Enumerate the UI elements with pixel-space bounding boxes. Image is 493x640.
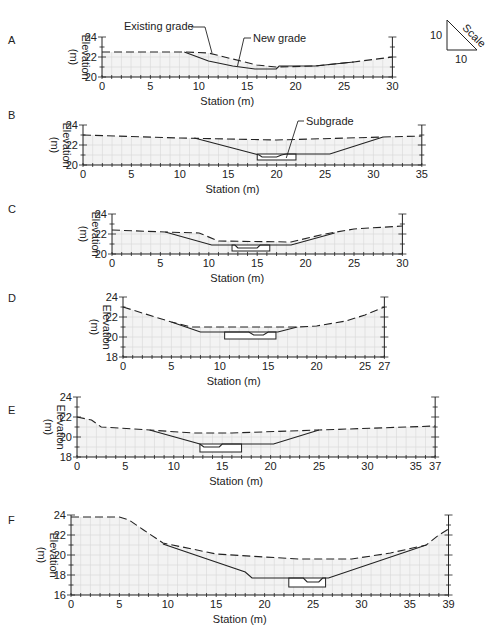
annotation-label: New grade (253, 32, 306, 44)
x-tick-label: 35 (404, 598, 416, 610)
panel-d: D05101520252718202224Station (m)Elevatio… (8, 291, 390, 387)
x-axis-label: Station (m) (209, 475, 263, 487)
panel-letter: C (8, 203, 16, 215)
x-tick-label: 30 (386, 80, 398, 92)
x-tick-label: 5 (128, 168, 134, 180)
x-tick-label: 10 (162, 598, 174, 610)
ground-fill (71, 517, 449, 595)
y-axis-unit-label: (m) (49, 137, 61, 154)
x-tick-label: 20 (289, 80, 301, 92)
y-tick-label: 24 (60, 391, 72, 403)
y-tick-label: 24 (106, 291, 118, 303)
x-tick-label: 0 (74, 460, 80, 472)
x-tick-label: 30 (396, 257, 408, 269)
annotation-leader (191, 27, 212, 53)
y-axis-label: Elevation (48, 532, 60, 577)
x-tick-label: 35 (410, 460, 422, 472)
panel-letter: E (8, 404, 15, 416)
y-axis-unit-label: (m) (78, 226, 90, 243)
x-tick-label: 25 (359, 360, 371, 372)
panel-e: E051015202530353718202224Station (m)Elev… (8, 391, 441, 487)
x-tick-label: 5 (147, 80, 153, 92)
x-tick-label: 25 (319, 168, 331, 180)
x-tick-label: 20 (258, 598, 270, 610)
x-tick-label: 25 (338, 80, 350, 92)
y-axis-unit-label: (m) (43, 419, 55, 436)
x-tick-label: 25 (348, 257, 360, 269)
x-tick-label: 0 (80, 168, 86, 180)
scale-label: Scale (460, 22, 488, 50)
panel-a: A051015202530202224Station (m)Elevation(… (8, 20, 399, 107)
x-tick-label: 20 (270, 168, 282, 180)
annotation-label: Existing grade (124, 20, 194, 32)
y-axis-label: Elevation (90, 211, 102, 256)
panel-f: F05101520253035391618202224Station (m)El… (8, 509, 455, 625)
cross-section-figure: A051015202530202224Station (m)Elevation(… (0, 0, 493, 640)
x-axis-label: Station (m) (213, 613, 267, 625)
scale-indicator: Scale 10 10 (430, 20, 488, 65)
x-tick-label: 30 (367, 168, 379, 180)
x-tick-label: 5 (122, 460, 128, 472)
x-tick-label: 10 (203, 257, 215, 269)
x-tick-label: 10 (193, 80, 205, 92)
x-tick-label: 5 (116, 598, 122, 610)
y-axis-unit-label: (m) (36, 547, 48, 564)
x-tick-label: 10 (168, 460, 180, 472)
x-tick-label: 0 (109, 257, 115, 269)
y-tick-label: 16 (54, 589, 66, 601)
x-tick-label: 35 (416, 168, 428, 180)
x-tick-label: 15 (210, 598, 222, 610)
x-tick-label: 5 (168, 360, 174, 372)
y-axis-unit-label: (m) (89, 319, 101, 336)
x-tick-label: 15 (251, 257, 263, 269)
x-tick-label: 5 (157, 257, 163, 269)
x-tick-label: 39 (442, 598, 454, 610)
scale-vertical-value: 10 (430, 29, 442, 41)
y-axis-unit-label: (m) (68, 49, 80, 66)
x-tick-label: 20 (310, 360, 322, 372)
x-tick-label: 10 (214, 360, 226, 372)
x-tick-label: 25 (307, 598, 319, 610)
y-tick-label: 24 (54, 509, 66, 521)
x-tick-label: 0 (99, 80, 105, 92)
y-axis-label: Elevation (101, 304, 113, 349)
x-tick-label: 20 (264, 460, 276, 472)
y-tick-label: 18 (60, 451, 72, 463)
x-tick-label: 10 (174, 168, 186, 180)
x-tick-label: 37 (429, 460, 441, 472)
annotation-label: Subgrade (306, 115, 354, 127)
x-tick-label: 0 (120, 360, 126, 372)
panel-letter: A (8, 34, 16, 46)
x-tick-label: 15 (216, 460, 228, 472)
x-tick-label: 15 (262, 360, 274, 372)
x-axis-label: Station (m) (210, 272, 264, 284)
panel-letter: D (8, 292, 16, 304)
panel-b: B05101520253035202224Station (m)Elevatio… (8, 109, 428, 195)
panel-c: C051015202530202224Station (m)Elevation(… (8, 203, 409, 284)
x-tick-label: 25 (313, 460, 325, 472)
x-axis-label: Station (m) (200, 95, 254, 107)
x-axis-label: Station (m) (206, 183, 260, 195)
x-tick-label: 15 (222, 168, 234, 180)
y-tick-label: 18 (106, 351, 118, 363)
x-tick-label: 27 (378, 360, 390, 372)
panel-letter: B (8, 109, 15, 121)
x-axis-label: Station (m) (207, 375, 261, 387)
x-tick-label: 0 (68, 598, 74, 610)
x-tick-label: 30 (355, 598, 367, 610)
x-tick-label: 20 (299, 257, 311, 269)
y-axis-label: Elevation (61, 122, 73, 167)
x-tick-label: 15 (241, 80, 253, 92)
scale-horizontal-value: 10 (455, 53, 467, 65)
y-axis-label: Elevation (80, 34, 92, 79)
x-tick-label: 30 (361, 460, 373, 472)
y-axis-label: Elevation (55, 404, 67, 449)
panel-letter: F (8, 514, 15, 526)
